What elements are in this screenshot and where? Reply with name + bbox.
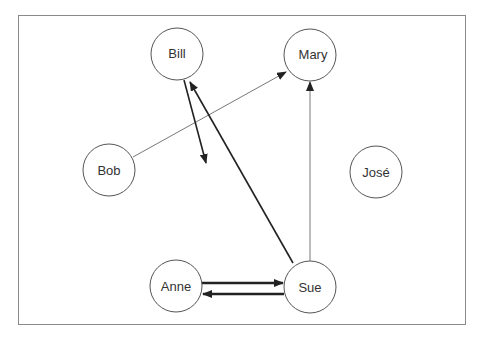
- sociogram: Bill Mary Bob José Anne Sue: [0, 0, 487, 339]
- node-jose: José: [350, 146, 402, 198]
- node-label: Anne: [161, 279, 191, 294]
- node-label: Mary: [299, 47, 328, 62]
- edge-bill-open: [184, 80, 206, 163]
- node-label: José: [362, 165, 389, 180]
- node-bill: Bill: [151, 28, 203, 80]
- edge-bob-mary: [133, 72, 286, 157]
- node-sue: Sue: [284, 261, 336, 313]
- node-label: Sue: [298, 280, 321, 295]
- node-label: Bill: [168, 46, 185, 61]
- node-bob: Bob: [83, 144, 135, 196]
- node-label: Bob: [97, 163, 120, 178]
- node-anne: Anne: [150, 260, 202, 312]
- edge-sue-bill: [190, 82, 293, 263]
- node-mary: Mary: [284, 29, 336, 81]
